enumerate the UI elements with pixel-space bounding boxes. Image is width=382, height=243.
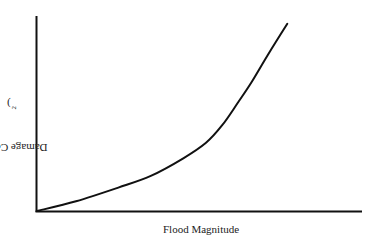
chart-canvas: [0, 0, 382, 243]
y-axis-label-close: ): [7, 98, 11, 110]
y-axis-label: Damage Costs (C2): [0, 85, 20, 205]
damage-curve: [37, 24, 287, 211]
x-axis-label: Flood Magnitude: [163, 223, 239, 235]
y-axis-label-text: Damage Costs (C: [0, 143, 47, 155]
y-axis-label-subscript: 2: [10, 106, 18, 110]
